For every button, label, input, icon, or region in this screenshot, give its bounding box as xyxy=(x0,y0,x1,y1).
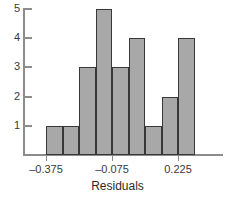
y-tick-mark xyxy=(25,8,32,10)
histogram-bar xyxy=(162,97,179,155)
x-tick-mark xyxy=(112,155,113,161)
y-tick-mark xyxy=(25,125,32,127)
y-tick-mark xyxy=(25,37,32,39)
histogram-bar xyxy=(46,126,63,155)
y-tick-label: 3 xyxy=(0,61,20,72)
histogram-bar xyxy=(129,38,146,155)
x-tick-label: 0.225 xyxy=(148,163,208,175)
histogram-bar xyxy=(178,38,195,155)
y-tick-label: 1 xyxy=(0,120,20,131)
histogram-figure: 12345 –0.375–0.0750.225 Residuals xyxy=(0,0,235,200)
x-axis-title: Residuals xyxy=(0,179,235,193)
y-tick-mark xyxy=(25,66,32,68)
x-tick-mark xyxy=(178,155,179,161)
y-tick-label: 2 xyxy=(0,91,20,102)
histogram-bar xyxy=(63,126,80,155)
y-axis-line xyxy=(23,8,25,156)
histogram-bar xyxy=(79,67,96,155)
histogram-bar xyxy=(145,126,162,155)
y-tick-mark xyxy=(25,96,32,98)
x-tick-mark xyxy=(46,155,47,161)
y-tick-label: 5 xyxy=(0,3,20,14)
y-tick-label: 4 xyxy=(0,32,20,43)
x-tick-label: –0.375 xyxy=(16,163,76,175)
histogram-bar xyxy=(96,9,113,155)
x-tick-label: –0.075 xyxy=(82,163,142,175)
histogram-bar xyxy=(112,67,129,155)
plot-area: 12345 –0.375–0.0750.225 Residuals xyxy=(0,0,235,200)
